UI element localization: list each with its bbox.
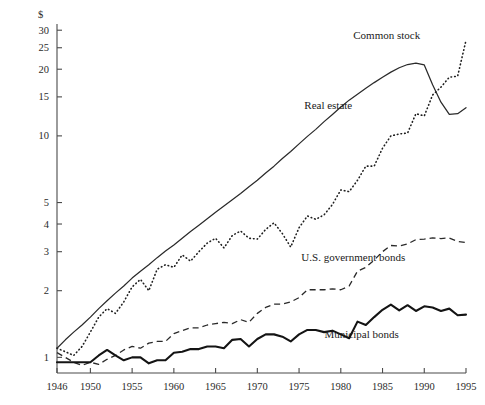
y-tick-label: 10 — [39, 130, 50, 141]
y-tick-label: 15 — [39, 91, 50, 102]
chart-canvas: 123451015202530 $ 1946195019551960196519… — [0, 0, 485, 405]
x-tick-label: 1995 — [456, 381, 477, 392]
series-label-municipal-bonds: Municipal bonds — [325, 328, 399, 340]
x-tick-label: 1950 — [80, 381, 101, 392]
x-axis: 1946195019551960196519701975198019851990… — [47, 368, 477, 392]
series-label-u-s-government-bonds: U.S. government bonds — [301, 251, 405, 263]
y-axis: 123451015202530 $ — [38, 9, 62, 373]
series-lines — [57, 40, 466, 365]
x-tick-label: 1970 — [247, 381, 268, 392]
series-label-common-stock: Common stock — [353, 29, 420, 41]
y-axis-tick-labels: 123451015202530 — [39, 25, 50, 363]
x-tick-label: 1990 — [414, 381, 435, 392]
x-tick-label: 1980 — [330, 381, 351, 392]
y-tick-label: 5 — [44, 197, 49, 208]
series-line-real-estate — [57, 63, 466, 348]
x-tick-label: 1975 — [289, 381, 310, 392]
series-annotations: Common stockReal estateU.S. government b… — [301, 29, 420, 341]
y-tick-label: 30 — [39, 25, 50, 36]
y-tick-label: 4 — [44, 219, 50, 230]
y-tick-label: 2 — [44, 285, 49, 296]
y-tick-label: 25 — [39, 42, 50, 53]
y-tick-label: 1 — [44, 352, 49, 363]
x-tick-label: 1960 — [163, 381, 184, 392]
x-axis-tick-labels: 1946195019551960196519701975198019851990… — [47, 381, 477, 392]
x-tick-label: 1955 — [122, 381, 143, 392]
y-tick-label: 20 — [39, 64, 50, 75]
y-tick-label: 3 — [44, 246, 49, 257]
series-label-real-estate: Real estate — [304, 99, 352, 111]
x-axis-ticks — [57, 368, 466, 373]
x-tick-label: 1985 — [372, 381, 393, 392]
x-tick-label: 1965 — [205, 381, 226, 392]
y-axis-ticks — [57, 30, 62, 357]
investment-growth-chart: 123451015202530 $ 1946195019551960196519… — [0, 0, 485, 405]
series-line-municipal-bonds — [57, 305, 466, 364]
y-axis-unit-label: $ — [38, 9, 43, 20]
x-tick-label: 1946 — [47, 381, 68, 392]
